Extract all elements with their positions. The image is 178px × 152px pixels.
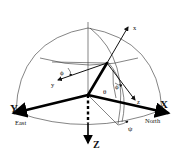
label-north: North	[145, 117, 161, 124]
label-east: East	[15, 119, 26, 126]
label-theta: θ	[103, 88, 107, 96]
sphere-outline	[16, 28, 162, 112]
diagram-canvas: Y East X North Z x y z ϕ ϕ θ ψ	[0, 0, 178, 152]
label-X: X	[160, 98, 168, 110]
Y-axis-east	[14, 95, 88, 113]
label-y: y	[51, 81, 55, 88]
body-x-axis	[107, 27, 128, 63]
label-psi: ψ	[128, 125, 133, 133]
X-axis-north	[88, 95, 168, 113]
label-phi-1: ϕ	[60, 69, 64, 77]
phi-arc-1	[68, 68, 71, 76]
label-z: z	[137, 98, 140, 105]
euler-angle-diagram: Y East X North Z x y z ϕ ϕ θ ψ	[0, 0, 178, 152]
label-Y: Y	[10, 102, 18, 114]
meridian-arc-2	[108, 62, 124, 122]
latitude-arc	[40, 58, 138, 65]
label-x: x	[133, 24, 137, 31]
meridian-arc	[90, 28, 121, 124]
label-phi-2: ϕ	[115, 83, 119, 91]
label-Z: Z	[93, 139, 100, 150]
